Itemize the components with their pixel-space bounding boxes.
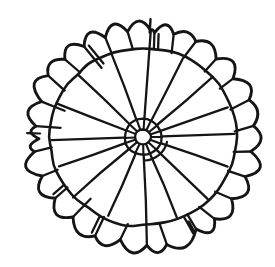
rim-plate-divider — [231, 100, 250, 110]
spoke — [59, 143, 125, 166]
spoke — [158, 77, 213, 125]
hub-spoke — [126, 140, 136, 143]
spoke-extended — [144, 30, 150, 118]
rim-plate-divider — [215, 192, 231, 199]
radial-disc-line-drawing — [0, 0, 275, 267]
hub-spoke — [147, 121, 151, 130]
rim-plate-divider — [36, 126, 61, 128]
hub-spoke — [126, 130, 136, 134]
rim-plate-divider — [105, 38, 112, 54]
hub-spoke — [144, 119, 145, 129]
rim-plate-divider — [172, 34, 174, 53]
spoke — [52, 138, 124, 140]
hub-spoke — [149, 143, 156, 150]
hub-spoke — [137, 120, 140, 129]
spoke — [163, 134, 235, 136]
spoke — [150, 154, 176, 217]
spoke — [56, 103, 125, 130]
hub-spoke — [135, 144, 139, 153]
rim-plate-divider — [228, 171, 245, 177]
rim-plate-divider — [95, 217, 104, 236]
rim-plate-divider — [154, 33, 155, 50]
illustration-page — [0, 0, 275, 267]
rim-plate-divider — [128, 32, 133, 50]
rim-plate-divider — [160, 224, 167, 245]
hub-spoke — [129, 142, 137, 149]
hub-spoke — [124, 138, 134, 139]
hub-spoke — [151, 131, 161, 134]
hub-spoke — [146, 145, 150, 154]
spoke-extended — [144, 156, 147, 246]
hub-spoke — [149, 125, 157, 131]
hub-spoke — [151, 140, 161, 144]
margin-tick — [150, 19, 151, 32]
hub-spoke — [130, 125, 137, 132]
rim-plate-divider-double — [158, 34, 159, 48]
rim-plate-divider — [65, 59, 80, 72]
rim-plate-divider — [55, 188, 67, 199]
rim-plate-divider — [35, 147, 52, 151]
rim-plate-divider — [199, 207, 214, 219]
rim-plate-divider — [48, 76, 64, 91]
spoke — [161, 107, 227, 130]
spoke — [152, 59, 183, 120]
outer-margin — [26, 21, 262, 253]
